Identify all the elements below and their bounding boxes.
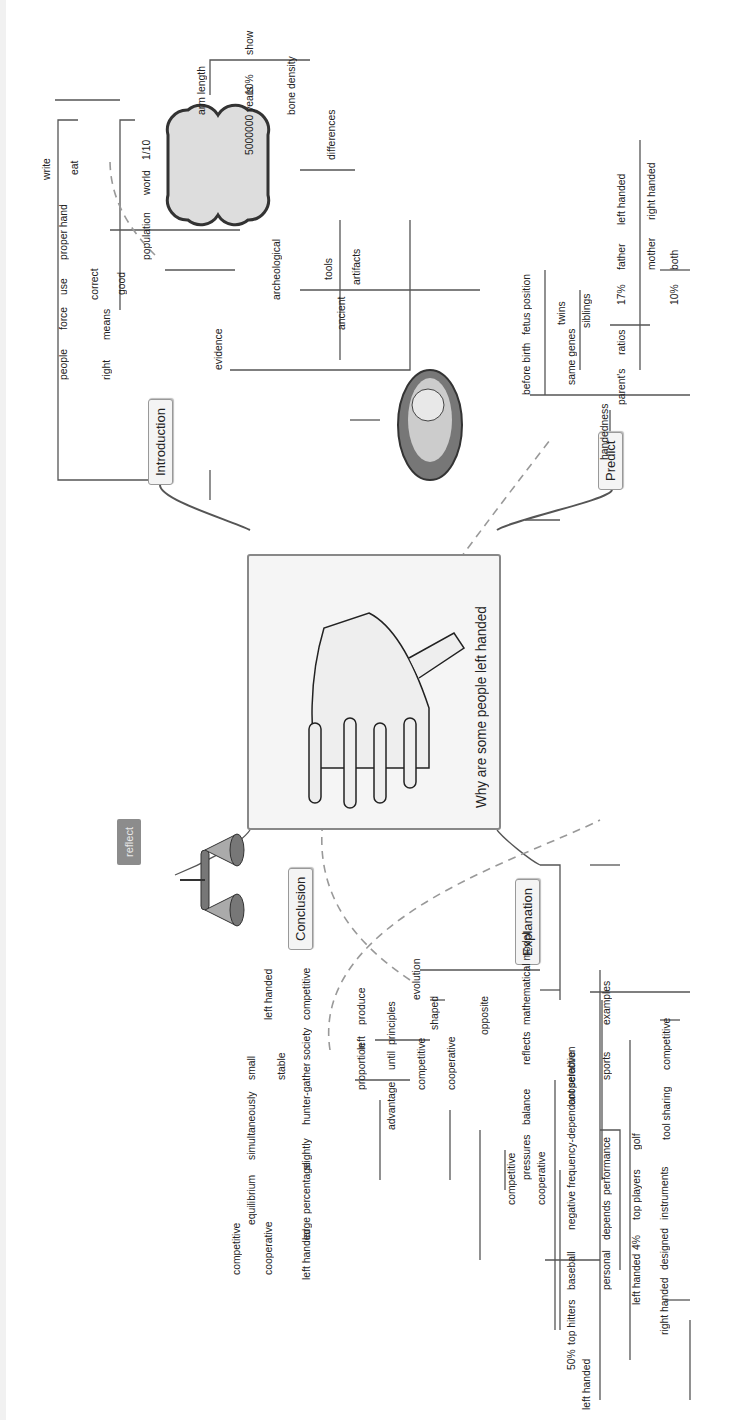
node[interactable]: proper hand bbox=[57, 204, 70, 260]
node[interactable]: negative frequency-dependant selection bbox=[565, 1046, 578, 1230]
node[interactable]: right handed bbox=[658, 1277, 671, 1335]
node[interactable]: left handed bbox=[300, 1229, 313, 1280]
node[interactable]: depends bbox=[600, 1200, 613, 1240]
node[interactable]: tools bbox=[322, 258, 335, 280]
node[interactable]: write bbox=[40, 158, 53, 180]
node[interactable]: handedness bbox=[598, 404, 611, 460]
node[interactable]: correct bbox=[88, 268, 101, 300]
node[interactable]: competitive bbox=[660, 1018, 673, 1070]
node[interactable]: stable bbox=[275, 1052, 288, 1080]
node[interactable]: twins bbox=[555, 301, 568, 325]
node[interactable]: competitive bbox=[415, 1038, 428, 1090]
node[interactable]: pressures bbox=[520, 1135, 533, 1180]
node[interactable]: left bbox=[355, 1036, 368, 1050]
scales-icon bbox=[180, 834, 244, 926]
node[interactable]: eat bbox=[68, 161, 81, 175]
node[interactable]: personal bbox=[600, 1250, 613, 1290]
node[interactable]: good bbox=[115, 272, 128, 295]
node[interactable]: principles bbox=[385, 1001, 398, 1045]
node[interactable]: same genes bbox=[565, 329, 578, 385]
node[interactable]: opposite bbox=[478, 996, 491, 1035]
node[interactable]: cooperative bbox=[445, 1036, 458, 1090]
node[interactable]: archeological bbox=[270, 239, 283, 300]
node[interactable]: designed bbox=[658, 1228, 671, 1270]
node[interactable]: use bbox=[57, 278, 70, 295]
mind-map-canvas: Why are some people left handed Introduc… bbox=[0, 0, 731, 1420]
node[interactable]: competitive bbox=[230, 1223, 243, 1275]
topic-conclusion[interactable]: Conclusion bbox=[288, 868, 313, 950]
node[interactable]: before birth bbox=[520, 343, 533, 395]
node[interactable]: left handed bbox=[615, 174, 628, 225]
node[interactable]: left handed bbox=[580, 1359, 593, 1410]
node[interactable]: performance bbox=[600, 1137, 613, 1195]
node[interactable]: population bbox=[140, 212, 153, 260]
node[interactable]: left handed bbox=[630, 1254, 643, 1305]
fetus-icon bbox=[398, 370, 462, 480]
node[interactable]: 50% bbox=[565, 1349, 578, 1370]
central-topic[interactable]: Why are some people left handed bbox=[247, 554, 501, 830]
node[interactable]: top hitters bbox=[565, 1300, 578, 1345]
node[interactable]: 5000000 years bbox=[243, 87, 256, 155]
node[interactable]: mathematical model bbox=[520, 932, 533, 1025]
node[interactable]: small bbox=[245, 1056, 258, 1080]
topic-introduction[interactable]: Introduction bbox=[148, 399, 173, 485]
node[interactable]: evolution bbox=[410, 959, 423, 1000]
node[interactable]: evidence bbox=[212, 329, 225, 370]
node[interactable]: right handed bbox=[645, 162, 658, 220]
node[interactable]: parent's bbox=[615, 368, 628, 405]
node[interactable]: 10% bbox=[243, 74, 256, 95]
node[interactable]: hunter-gather society bbox=[300, 1028, 313, 1125]
node[interactable]: right bbox=[100, 360, 113, 380]
node[interactable]: shaped bbox=[428, 996, 441, 1030]
node[interactable]: mother bbox=[645, 238, 658, 270]
node[interactable]: equilibrium bbox=[245, 1175, 258, 1225]
node[interactable]: cooperative bbox=[262, 1221, 275, 1275]
node[interactable]: top players bbox=[630, 1169, 643, 1220]
node[interactable]: 10% bbox=[668, 284, 681, 305]
node[interactable]: people bbox=[57, 349, 70, 380]
node[interactable]: sports bbox=[600, 1052, 613, 1080]
node[interactable]: left handed bbox=[262, 969, 275, 1020]
node[interactable]: father bbox=[615, 244, 628, 270]
node[interactable]: competitive bbox=[300, 968, 313, 1020]
node[interactable]: golf bbox=[630, 1133, 643, 1150]
node[interactable]: means bbox=[100, 309, 113, 340]
node[interactable]: world bbox=[140, 170, 153, 195]
node[interactable]: arm length bbox=[195, 66, 208, 115]
node[interactable]: produce bbox=[355, 988, 368, 1025]
node[interactable]: ratios bbox=[615, 330, 628, 355]
node[interactable]: balance bbox=[520, 1089, 533, 1125]
node[interactable]: baseball bbox=[565, 1251, 578, 1290]
node[interactable]: tool sharing bbox=[660, 1086, 673, 1140]
node[interactable]: show bbox=[243, 31, 256, 55]
node[interactable]: differences bbox=[325, 110, 338, 160]
node[interactable]: 17% bbox=[615, 284, 628, 305]
node[interactable]: reflects bbox=[520, 1032, 533, 1065]
node[interactable]: artifacts bbox=[350, 249, 363, 285]
node[interactable]: 1/10 bbox=[140, 140, 153, 160]
node[interactable]: instruments bbox=[658, 1167, 671, 1220]
node[interactable]: 4% bbox=[630, 1235, 643, 1250]
node[interactable]: fetus position bbox=[520, 274, 533, 335]
node[interactable]: simultaneously bbox=[245, 1092, 258, 1160]
node[interactable]: advantage bbox=[385, 1082, 398, 1130]
node[interactable]: force bbox=[57, 307, 70, 330]
node[interactable]: ancient bbox=[335, 297, 348, 330]
node[interactable]: siblings bbox=[580, 293, 593, 328]
node[interactable]: bone density bbox=[285, 56, 298, 115]
node[interactable]: proportion bbox=[355, 1043, 368, 1090]
central-title: Why are some people left handed bbox=[472, 606, 489, 808]
hand-icon bbox=[249, 556, 499, 828]
node[interactable]: both bbox=[668, 250, 681, 270]
node[interactable]: cooperative bbox=[535, 1151, 548, 1205]
node[interactable]: competitive bbox=[505, 1153, 518, 1205]
node[interactable]: until bbox=[385, 1051, 398, 1070]
node[interactable]: examples bbox=[600, 981, 613, 1025]
reflect-node[interactable]: reflect bbox=[117, 819, 141, 865]
